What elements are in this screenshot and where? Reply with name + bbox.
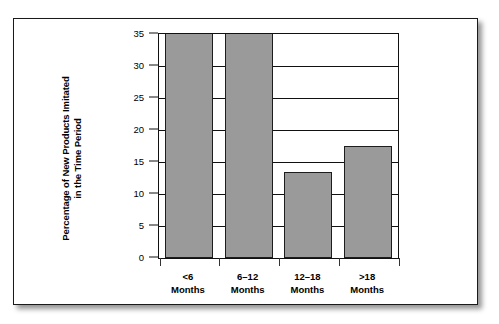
y-tick-mark-5 (149, 225, 158, 226)
plot-area (158, 33, 399, 259)
x-label-3: >18Months (337, 271, 397, 296)
x-label-2-line-2: Months (278, 284, 338, 297)
y-tick-mark-0 (149, 257, 158, 258)
x-label-2-line-1: 12–18 (278, 271, 338, 284)
x-tick-0 (160, 258, 161, 266)
y-axis-ticks: 05101520253035 (114, 33, 158, 257)
bar-1 (225, 34, 273, 258)
y-tick-label-35: 35 (116, 28, 144, 39)
y-tick-mark-15 (149, 161, 158, 162)
x-tick-4 (399, 258, 400, 266)
y-tick-label-25: 25 (116, 92, 144, 103)
y-tick-label-5: 5 (116, 220, 144, 231)
y-tick-label-0: 0 (116, 252, 144, 263)
x-tick-1 (219, 258, 220, 266)
y-tick-label-30: 30 (116, 60, 144, 71)
x-tick-3 (339, 258, 340, 266)
y-tick-label-20: 20 (116, 124, 144, 135)
x-label-3-line-1: >18 (337, 271, 397, 284)
x-label-0-line-2: Months (158, 284, 218, 297)
y-tick-mark-10 (149, 193, 158, 194)
x-label-1: 6–12Months (218, 271, 278, 296)
y-axis-title-line-1: Percentage of New Products Imitated (60, 44, 72, 274)
bar-2 (284, 172, 332, 258)
y-tick-mark-35 (149, 33, 158, 34)
x-axis-ticks (158, 258, 400, 268)
x-label-2: 12–18Months (278, 271, 338, 296)
x-tick-2 (279, 258, 280, 266)
figure-frame: Percentage of New Products Imitated in t… (13, 18, 478, 305)
y-tick-mark-30 (149, 65, 158, 66)
x-axis-labels: <6Months6–12Months12–18Months>18Months (158, 271, 400, 307)
x-label-0: <6Months (158, 271, 218, 296)
y-tick-label-15: 15 (116, 156, 144, 167)
x-label-1-line-1: 6–12 (218, 271, 278, 284)
x-label-0-line-1: <6 (158, 271, 218, 284)
bar-chart: Percentage of New Products Imitated in t… (14, 19, 479, 306)
x-label-3-line-2: Months (337, 284, 397, 297)
bar-0 (165, 34, 213, 258)
y-tick-mark-20 (149, 129, 158, 130)
x-label-1-line-2: Months (218, 284, 278, 297)
y-axis-title-line-2: in the Time Period (71, 44, 83, 274)
bar-3 (344, 146, 392, 258)
y-tick-label-10: 10 (116, 188, 144, 199)
y-axis-title: Percentage of New Products Imitated in t… (60, 44, 83, 274)
y-tick-mark-25 (149, 97, 158, 98)
